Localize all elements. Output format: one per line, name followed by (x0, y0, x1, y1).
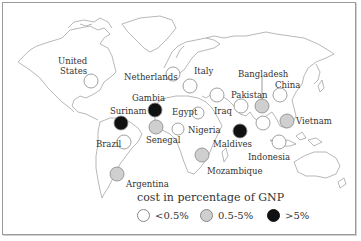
marker-vietnam[interactable] (280, 114, 294, 128)
legend-swatch-grey-circle-icon (200, 209, 213, 222)
marker-nigeria[interactable] (172, 123, 184, 135)
marker-argentina[interactable] (110, 167, 124, 181)
label-maldives: Maldives (213, 140, 252, 149)
label-iraq: Iraq (214, 107, 232, 116)
marker-italy[interactable] (183, 79, 197, 93)
label-mozambique: Mozambique (207, 167, 263, 176)
label-senegal: Senegal (146, 136, 181, 145)
legend-item-high: >5% (267, 208, 309, 222)
marker-bangladesh[interactable] (255, 99, 269, 113)
label-united-states-line2: States (60, 67, 87, 76)
legend-item-low: <0.5% (137, 208, 189, 222)
marker-indonesia-a[interactable] (256, 116, 270, 130)
label-surinam: Surinam (110, 107, 147, 116)
country-markers (84, 67, 294, 181)
legend-swatch-white-circle-icon (137, 209, 150, 222)
marker-mozambique[interactable] (195, 148, 209, 162)
label-pakistan: Pakistan (231, 91, 268, 100)
marker-surinam[interactable] (114, 116, 128, 130)
label-netherlands: Netherlands (124, 73, 178, 82)
marker-indonesia-b[interactable] (272, 135, 286, 149)
marker-iraq[interactable] (210, 88, 224, 102)
label-nigeria: Nigeria (188, 126, 220, 135)
legend-item-mid: 0.5-5% (200, 208, 253, 222)
legend-swatch-black-circle-icon (267, 209, 280, 222)
label-indonesia: Indonesia (248, 153, 290, 162)
label-united-states-line1: United (58, 57, 87, 66)
label-italy: Italy (194, 67, 213, 76)
marker-maldives[interactable] (233, 124, 247, 138)
marker-china[interactable] (273, 88, 287, 102)
label-bangladesh: Bangladesh (238, 70, 288, 79)
legend-label-mid: 0.5-5% (218, 210, 253, 221)
label-china: China (275, 81, 300, 90)
label-egypt: Egypt (172, 108, 197, 117)
legend-label-low: <0.5% (155, 210, 189, 221)
marker-gambia[interactable] (148, 103, 162, 117)
marker-united-states[interactable] (84, 74, 98, 88)
marker-senegal[interactable] (149, 120, 163, 134)
label-gambia: Gambia (132, 94, 165, 103)
marker-pakistan[interactable] (234, 99, 248, 113)
label-vietnam: Vietnam (296, 117, 332, 126)
legend-label-high: >5% (285, 210, 309, 221)
label-argentina: Argentina (126, 180, 169, 189)
label-brazil: Brazil (96, 140, 121, 149)
legend-title: cost in percentage of GNP (137, 191, 284, 204)
